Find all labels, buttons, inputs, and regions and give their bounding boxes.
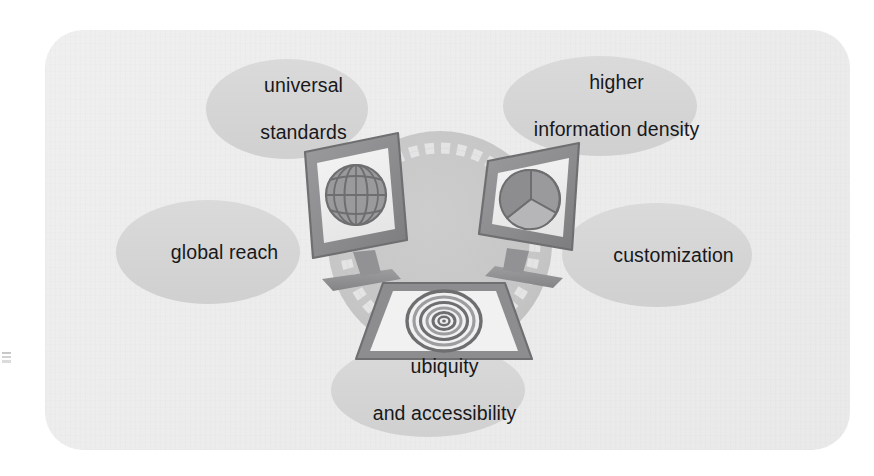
node-higher-information-density [503, 56, 697, 156]
node-global-reach [116, 200, 300, 304]
figure-canvas: universal standards higher information d… [0, 0, 874, 476]
node-customization [562, 203, 752, 307]
globe-icon [326, 165, 386, 225]
diagram-artwork [45, 30, 850, 450]
page-edge-artifact [2, 352, 11, 363]
diagram-panel: universal standards higher information d… [45, 30, 850, 450]
pie-chart-icon [500, 170, 560, 229]
target-panel [356, 283, 532, 359]
